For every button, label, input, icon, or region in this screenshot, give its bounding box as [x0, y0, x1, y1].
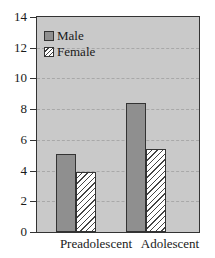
y-tick-label: 14 [0, 10, 27, 23]
y-tick-label: 12 [0, 41, 27, 54]
x-label-adolescent: Adolescent [130, 236, 210, 252]
y-tick [30, 140, 36, 141]
y-tick-label: 10 [0, 71, 27, 84]
y-tick-label: 8 [0, 102, 27, 115]
legend-male-label: Male [57, 28, 84, 44]
gridline [37, 78, 199, 79]
y-tick [30, 78, 36, 79]
male-swatch-icon [44, 31, 54, 41]
female-swatch-icon [44, 47, 54, 57]
legend-female-label: Female [57, 44, 95, 60]
y-tick-label: 4 [0, 164, 27, 177]
legend-item-male: Male [44, 28, 95, 44]
gridline [37, 140, 199, 141]
y-tick [30, 109, 36, 110]
bar-female-adolescent [146, 149, 166, 232]
bar-male-adolescent [126, 103, 146, 232]
y-tick [30, 171, 36, 172]
y-tick [30, 17, 36, 18]
bar-female-preadolescent [76, 172, 96, 232]
legend: Male Female [44, 28, 95, 60]
y-tick [30, 201, 36, 202]
legend-item-female: Female [44, 44, 95, 60]
bar-male-preadolescent [56, 154, 76, 232]
y-tick-label: 6 [0, 133, 27, 146]
y-tick-label: 0 [0, 225, 27, 238]
gridline [37, 109, 199, 110]
y-tick [30, 48, 36, 49]
y-tick-label: 2 [0, 194, 27, 207]
y-tick [30, 232, 36, 233]
